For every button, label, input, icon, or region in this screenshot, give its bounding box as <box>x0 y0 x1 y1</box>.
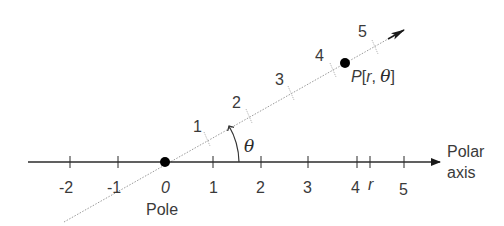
polar-axis-label-line2: axis <box>447 164 475 181</box>
origin-label: 0 <box>161 179 170 196</box>
ray-tick-label: 3 <box>275 71 284 88</box>
ray-tick-labels: 1 2 3 4 5 <box>193 23 367 135</box>
polar-axis-label-line1: Polar <box>447 143 485 160</box>
axis-tick-label: 1 <box>209 179 218 196</box>
axis-tick-label: 2 <box>256 179 265 196</box>
pole-label: Pole <box>146 201 178 218</box>
pole-point <box>160 157 170 167</box>
ray-tick-label: 1 <box>193 118 202 135</box>
point-p-name: P <box>351 68 362 85</box>
axis-tick-label: -1 <box>107 179 121 196</box>
ray-tick-label: 4 <box>315 47 324 64</box>
axis-tick-label: 5 <box>399 181 408 198</box>
axis-tick-labels: -2 -1 0 1 2 3 4 r 5 <box>59 176 408 198</box>
angle-arc <box>229 126 239 162</box>
axis-tick-label: -2 <box>59 179 73 196</box>
point-p-label: P[r, θ] <box>351 66 395 86</box>
ray-tick-label: 2 <box>232 94 241 111</box>
ray-tick-label: 5 <box>358 23 367 40</box>
ray-ticks <box>204 40 378 146</box>
axis-tick-label: 3 <box>303 179 312 196</box>
axis-tick-label: 4 <box>351 179 360 196</box>
point-p <box>340 58 350 68</box>
polar-coordinates-diagram: 1 2 3 4 5 -2 -1 0 1 2 3 4 r 5 Pole Polar… <box>0 0 504 226</box>
r-tick-label: r <box>368 176 374 193</box>
theta-label: θ <box>244 136 254 156</box>
